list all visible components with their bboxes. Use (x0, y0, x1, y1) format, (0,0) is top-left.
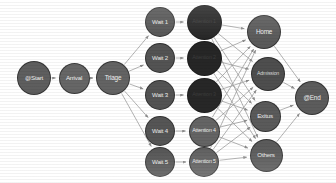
edge-att3-to-home (216, 46, 250, 81)
node-att5[interactable]: Attention 5 (189, 147, 219, 177)
node-start[interactable]: @Start (17, 61, 51, 95)
node-label: Wait 1 (146, 19, 174, 25)
node-home[interactable]: Home (247, 15, 281, 49)
node-label: Exitus (251, 113, 280, 119)
node-label: Home (248, 29, 280, 36)
node-att1[interactable]: Attention 1 (187, 5, 222, 40)
node-end[interactable]: @End (295, 81, 329, 115)
node-wait2[interactable]: Wait 2 (145, 43, 175, 73)
node-wait1[interactable]: Wait 1 (145, 7, 175, 37)
node-label: Wait 2 (146, 55, 174, 61)
node-label: Others (251, 152, 282, 158)
node-triage[interactable]: Triage (96, 61, 130, 95)
node-wait3[interactable]: Wait 3 (145, 80, 175, 110)
edge-admission-to-end (283, 82, 294, 88)
node-admission[interactable]: Admission (251, 57, 285, 91)
node-label: Wait 3 (146, 92, 174, 98)
node-label: @End (296, 95, 328, 102)
node-arrival[interactable]: Arrival (59, 63, 90, 94)
edge-att5-to-others (220, 157, 247, 160)
node-att4[interactable]: Attention 4 (189, 116, 220, 147)
node-label: Wait 5 (146, 159, 174, 165)
node-label: @Start (18, 75, 50, 81)
node-wait5[interactable]: Wait 5 (145, 147, 175, 177)
node-exitus[interactable]: Exitus (250, 101, 281, 132)
edge-att2-to-home (221, 40, 246, 51)
node-label: Attention 1 (188, 19, 221, 25)
edge-att5-to-exitus (216, 127, 250, 152)
node-label: Wait 4 (146, 128, 174, 134)
node-others[interactable]: Others (250, 139, 283, 172)
edge-triage-to-wait3 (130, 84, 144, 89)
node-label: Attention 5 (190, 159, 218, 165)
node-att3[interactable]: Attention 3 (187, 78, 222, 113)
node-label: Arrival (60, 75, 89, 81)
edge-triage-to-wait2 (129, 65, 143, 71)
node-label: Attention 2 (188, 55, 221, 61)
edge-att1-to-home (222, 25, 244, 29)
edge-exitus-to-end (280, 105, 293, 110)
node-label: Attention 4 (190, 128, 219, 134)
node-label: Admission (252, 71, 284, 76)
node-wait4[interactable]: Wait 4 (145, 116, 175, 146)
node-label: Attention 3 (188, 92, 221, 98)
edge-att4-to-others (219, 137, 248, 148)
node-att2[interactable]: Attention 2 (187, 41, 222, 76)
edge-att3-to-exitus (221, 101, 247, 110)
process-graph-canvas: @StartArrivalTriageWait 1Wait 2Wait 3Wai… (0, 0, 336, 183)
node-label: Triage (97, 75, 129, 82)
